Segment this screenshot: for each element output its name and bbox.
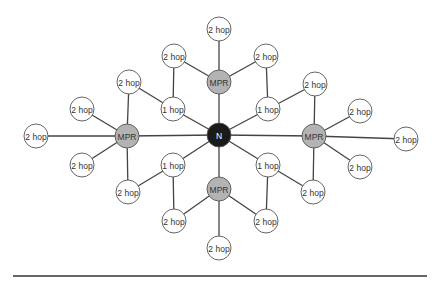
center-node-n-label: N [216, 131, 222, 141]
two-hop-node-label: 2 hop [349, 163, 371, 173]
two-hop-node: 2 hop [254, 209, 278, 233]
one-hop-node-label: 1 hop [257, 161, 279, 171]
two-hop-node-label: 2 hop [71, 161, 93, 171]
edge-N-mpr_r [219, 135, 314, 136]
two-hop-node-label: 2 hop [302, 188, 324, 198]
one-hop-node-label: 1 hop [162, 105, 184, 115]
two-hop-node-label: 2 hop [349, 107, 371, 117]
two-hop-node: 2 hop [162, 44, 186, 68]
nodes-layer: NMPRMPRMPRMPR1 hop1 hop1 hop1 hop2 hop2 … [24, 17, 418, 260]
two-hop-node-label: 2 hop [255, 52, 277, 62]
two-hop-node-label: 2 hop [25, 132, 47, 142]
two-hop-node-label: 2 hop [208, 25, 230, 35]
edge-N-mpr_l [127, 135, 219, 136]
two-hop-node-label: 2 hop [208, 244, 230, 254]
two-hop-node: 2 hop [348, 99, 372, 123]
mpr-node-label: MPR [210, 185, 229, 195]
mpr-node: MPR [207, 70, 231, 94]
two-hop-node-label: 2 hop [118, 78, 140, 88]
two-hop-node-label: 2 hop [304, 80, 326, 90]
mpr-node: MPR [115, 124, 139, 148]
mpr-node: MPR [302, 124, 326, 148]
one-hop-node: 1 hop [161, 97, 185, 121]
two-hop-node: 2 hop [24, 124, 48, 148]
two-hop-node: 2 hop [207, 236, 231, 260]
two-hop-node: 2 hop [70, 97, 94, 121]
two-hop-node: 2 hop [116, 180, 140, 204]
two-hop-node-label: 2 hop [163, 217, 185, 227]
two-hop-node-label: 2 hop [395, 135, 417, 145]
two-hop-node-label: 2 hop [71, 105, 93, 115]
edge-mpr_r-h2_r_far [314, 136, 406, 139]
one-hop-node-label: 1 hop [162, 161, 184, 171]
two-hop-node: 2 hop [162, 209, 186, 233]
one-hop-node: 1 hop [161, 153, 185, 177]
two-hop-node: 2 hop [254, 44, 278, 68]
two-hop-node: 2 hop [301, 180, 325, 204]
one-hop-node: 1 hop [256, 97, 280, 121]
two-hop-node: 2 hop [348, 155, 372, 179]
two-hop-node: 2 hop [70, 153, 94, 177]
two-hop-node: 2 hop [394, 127, 418, 151]
network-diagram: NMPRMPRMPRMPR1 hop1 hop1 hop1 hop2 hop2 … [0, 0, 440, 282]
one-hop-node-label: 1 hop [257, 105, 279, 115]
mpr-node-label: MPR [210, 78, 229, 88]
two-hop-node: 2 hop [303, 72, 327, 96]
mpr-node-label: MPR [118, 132, 137, 142]
center-node-n: N [207, 123, 231, 147]
two-hop-node-label: 2 hop [163, 52, 185, 62]
mpr-node: MPR [207, 177, 231, 201]
mpr-node-label: MPR [305, 132, 324, 142]
one-hop-node: 1 hop [256, 153, 280, 177]
two-hop-node-label: 2 hop [117, 188, 139, 198]
two-hop-node: 2 hop [117, 70, 141, 94]
two-hop-node-label: 2 hop [255, 217, 277, 227]
two-hop-node: 2 hop [207, 17, 231, 41]
